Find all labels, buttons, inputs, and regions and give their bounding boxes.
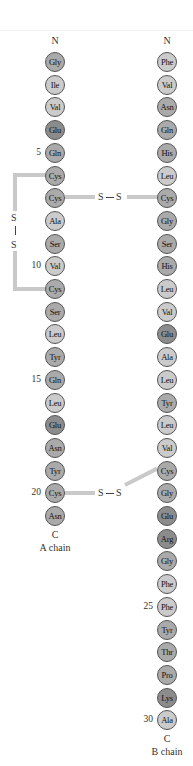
chain-b-residue-27: Thr [157, 642, 177, 662]
chain-b-residue-5: His [157, 143, 177, 163]
chain-a-position-marker: 5 [25, 148, 41, 158]
chain-b-residue-2: Val [157, 75, 177, 95]
chain-a-residue-3: Val [45, 97, 65, 117]
chain-b-residue-20: Gly [157, 483, 177, 503]
chain-b-residue-7: Cys [157, 188, 177, 208]
chain-a-residue-2: Ile [45, 75, 65, 95]
intrachain-sulfur-top: S [11, 213, 17, 223]
chain-b-residue-16: Tyr [157, 393, 177, 413]
chain-b-residue-24: Phe [157, 574, 177, 594]
chain-b-name: B chain [137, 747, 193, 757]
chain-b-c-terminus: C [157, 734, 177, 744]
interchain-bond-1-left [65, 195, 95, 199]
chain-b-residue-28: Pro [157, 665, 177, 685]
interchain-bond-1-sulfur-left: S [98, 192, 104, 202]
chain-b-residue-11: Leu [157, 279, 177, 299]
intrachain-bond-top-vertical [13, 173, 17, 211]
intrachain-bond-bottom-horizontal [13, 287, 46, 291]
chain-b-residue-1: Phe [157, 52, 177, 72]
intrachain-bond-top-horizontal [13, 173, 46, 177]
chain-b-residue-3: Asn [157, 97, 177, 117]
chain-a-residue-20: Cys [45, 483, 65, 503]
chain-b-n-terminus: N [157, 36, 177, 46]
intrachain-bond-line [15, 226, 16, 235]
interchain-bond-1-right [127, 195, 158, 199]
chain-b-residue-18: Val [157, 438, 177, 458]
chain-b-residue-19: Cys [157, 461, 177, 481]
chain-b-position-marker: 30 [137, 715, 153, 725]
chain-a-c-terminus: C [45, 530, 65, 540]
chain-a-residue-13: Leu [45, 324, 65, 344]
interchain-bond-1-sulfur-right: S [116, 192, 122, 202]
chain-a-residue-5: Gln [45, 143, 65, 163]
chain-a-residue-12: Ser [45, 302, 65, 322]
chain-b-residue-6: Leu [157, 166, 177, 186]
interchain-bond-2-sulfur-right: S [116, 488, 122, 498]
chain-b-residue-9: Ser [157, 234, 177, 254]
interchain-bond-2-left [65, 491, 95, 495]
chain-b-residue-26: Tyr [157, 620, 177, 640]
chain-a-residue-9: Ser [45, 234, 65, 254]
chain-b-residue-25: Phe [157, 597, 177, 617]
chain-a-position-marker: 15 [25, 375, 41, 385]
chain-b-residue-12: Val [157, 302, 177, 322]
interchain-bond-1-line [106, 197, 114, 198]
chain-a-residue-4: Glu [45, 120, 65, 140]
chain-b-residue-14: Ala [157, 347, 177, 367]
chain-a-residue-18: Asn [45, 438, 65, 458]
chain-a-residue-7: Cys [45, 188, 65, 208]
chain-a-residue-6: Cys [45, 166, 65, 186]
chain-a-residue-11: Cys [45, 279, 65, 299]
chain-a-position-marker: 20 [25, 488, 41, 498]
chain-b-residue-10: His [157, 256, 177, 276]
chain-a-residue-16: Leu [45, 393, 65, 413]
chain-a-residue-15: Gln [45, 370, 65, 390]
chain-a-residue-1: Gly [45, 52, 65, 72]
chain-a-position-marker: 10 [25, 261, 41, 271]
interchain-bond-2-sulfur-left: S [98, 488, 104, 498]
chain-a-residue-21: Asn [45, 506, 65, 526]
chain-a-residue-17: Glu [45, 415, 65, 435]
chain-b-residue-23: Gly [157, 551, 177, 571]
chain-b-residue-15: Leu [157, 370, 177, 390]
interchain-bond-2-line [106, 493, 114, 494]
top-divider [0, 30, 193, 31]
intrachain-sulfur-bottom: S [11, 240, 17, 250]
chain-b-residue-21: Glu [157, 506, 177, 526]
chain-b-position-marker: 25 [137, 602, 153, 612]
chain-a-residue-10: Val [45, 256, 65, 276]
chain-b-residue-29: Lys [157, 688, 177, 708]
chain-b-residue-13: Glu [157, 324, 177, 344]
chain-b-residue-22: Arg [157, 529, 177, 549]
chain-b-residue-17: Leu [157, 415, 177, 435]
interchain-bond-2-diagonal [124, 467, 158, 487]
chain-a-name: A chain [25, 543, 85, 553]
chain-a-residue-8: Ala [45, 211, 65, 231]
intrachain-bond-bottom-vertical [13, 251, 17, 291]
chain-a-residue-19: Tyr [45, 461, 65, 481]
chain-a-residue-14: Tyr [45, 347, 65, 367]
chain-b-residue-4: Gln [157, 120, 177, 140]
chain-a-n-terminus: N [45, 36, 65, 46]
chain-b-residue-30: Ala [157, 710, 177, 730]
chain-b-residue-8: Gly [157, 211, 177, 231]
